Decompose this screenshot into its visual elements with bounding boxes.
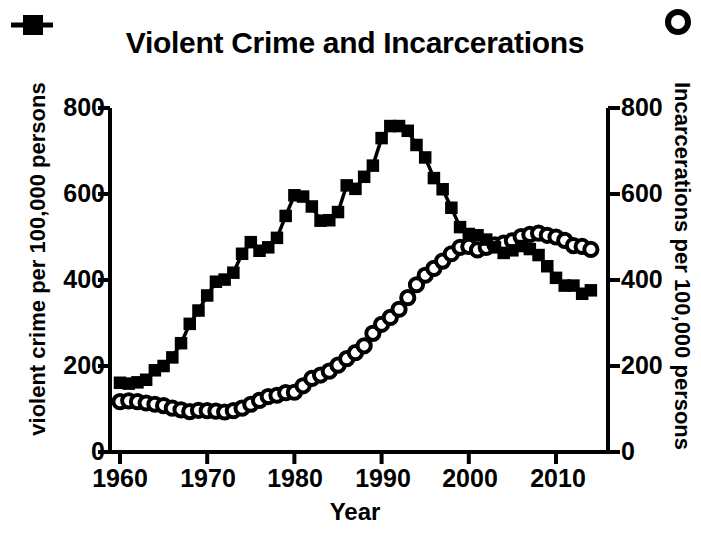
chart-figure: Violent Crime and Incarcerations violent… — [0, 0, 701, 534]
plot-area — [0, 0, 701, 534]
